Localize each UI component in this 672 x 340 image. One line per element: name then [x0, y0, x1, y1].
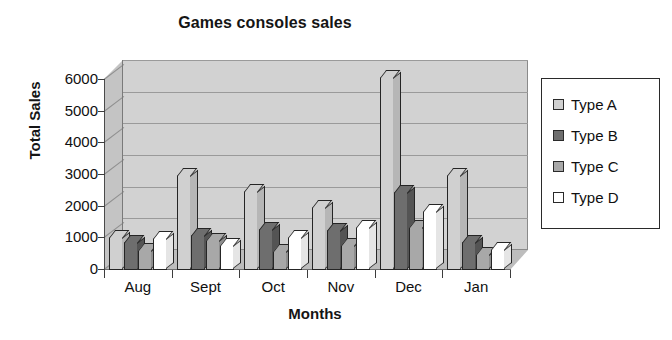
bar [409, 227, 423, 270]
legend: Type AType BType CType D [541, 78, 660, 229]
bar [423, 211, 437, 270]
legend-label: Type B [571, 127, 618, 144]
y-tick-label: 3000 [42, 166, 98, 181]
legend-item[interactable]: Type C [553, 155, 619, 177]
chart-container: Games consoles sales Total Sales 0100020… [0, 0, 672, 340]
legend-item[interactable]: Type B [553, 124, 618, 146]
x-tick-label: Aug [103, 278, 173, 295]
y-tick-label: 4000 [42, 134, 98, 149]
bar-side-face [166, 233, 174, 269]
x-tick-mark [172, 270, 173, 278]
bar [327, 230, 341, 270]
legend-swatch-icon [553, 161, 564, 172]
bar [356, 227, 370, 270]
bar [244, 191, 258, 270]
x-tick-mark [510, 270, 511, 278]
x-tick-label: Nov [306, 278, 376, 295]
x-tick-mark [104, 270, 105, 278]
bar [109, 237, 123, 270]
bar [124, 242, 138, 271]
x-tick-label: Jan [441, 278, 511, 295]
x-tick-label: Dec [374, 278, 444, 295]
legend-label: Type A [571, 96, 617, 113]
bar [476, 254, 490, 270]
legend-label: Type C [571, 158, 619, 175]
x-tick-mark [442, 270, 443, 278]
plot-area [104, 60, 528, 270]
bar [394, 192, 408, 270]
legend-swatch-icon [553, 130, 564, 141]
bar-group [312, 79, 370, 270]
bar [138, 250, 152, 270]
bar [462, 242, 476, 271]
y-tick-mark [98, 174, 105, 175]
legend-swatch-icon [553, 99, 564, 110]
y-tick-label: 1000 [42, 229, 98, 244]
y-tick-mark [98, 142, 105, 143]
y-tick-mark [98, 79, 105, 80]
bar [288, 237, 302, 270]
bar [273, 251, 287, 270]
y-tick-label: 5000 [42, 103, 98, 118]
x-axis-title: Months [100, 305, 530, 322]
legend-item[interactable]: Type D [553, 186, 619, 208]
bar-group [244, 79, 302, 270]
bar [380, 77, 394, 270]
bar-group [447, 79, 505, 270]
bar [153, 238, 167, 270]
bar-group [109, 79, 167, 270]
y-tick-label: 2000 [42, 198, 98, 213]
bar [177, 175, 191, 270]
y-tick-label: 6000 [42, 71, 98, 86]
x-axis: AugSeptOctNovDecJan [104, 270, 528, 304]
bar [191, 235, 205, 270]
y-tick-mark [98, 206, 105, 207]
bar-side-face [436, 206, 444, 269]
bar [220, 245, 234, 270]
x-tick-mark [375, 270, 376, 278]
x-tick-mark [239, 270, 240, 278]
y-tick-mark [98, 237, 105, 238]
bar [206, 240, 220, 270]
bar [312, 207, 326, 270]
x-tick-label: Oct [238, 278, 308, 295]
x-tick-mark [307, 270, 308, 278]
legend-item[interactable]: Type A [553, 93, 617, 115]
bar-group [380, 79, 438, 270]
bar-group [177, 79, 235, 270]
legend-label: Type D [571, 189, 619, 206]
y-axis-tick-labels: 0100020003000400050006000 [38, 0, 98, 340]
x-tick-label: Sept [171, 278, 241, 295]
y-tick-label: 0 [42, 261, 98, 276]
bar [259, 229, 273, 270]
bar [491, 249, 505, 270]
bar-side-face [369, 222, 377, 269]
bar-side-face [301, 231, 309, 269]
bar [447, 175, 461, 270]
y-tick-mark [98, 111, 105, 112]
bar [341, 245, 355, 270]
gridline [123, 60, 528, 61]
legend-swatch-icon [553, 192, 564, 203]
